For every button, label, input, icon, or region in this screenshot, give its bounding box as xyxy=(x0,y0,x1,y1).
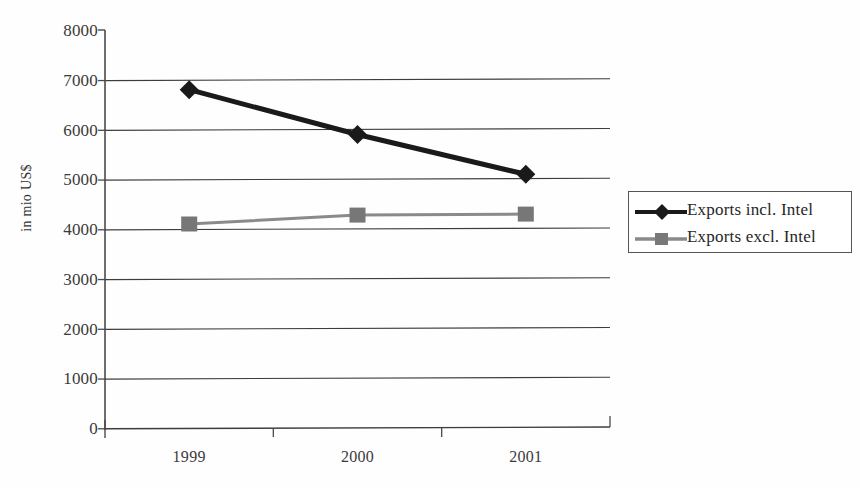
data-point-marker xyxy=(348,125,367,144)
legend-item-exports-incl-intel: Exports incl. Intel xyxy=(629,196,851,223)
gridline xyxy=(105,427,610,429)
data-point-marker xyxy=(180,80,199,99)
gridline xyxy=(105,328,610,330)
legend-label: Exports incl. Intel xyxy=(687,200,813,220)
legend-swatch-diamond xyxy=(635,200,687,220)
gridline xyxy=(105,278,610,280)
data-point-marker xyxy=(516,165,535,184)
diamond-marker-icon xyxy=(654,204,670,220)
data-series xyxy=(180,80,536,231)
gridline xyxy=(105,178,610,180)
legend-swatch-square xyxy=(635,227,687,247)
chart-figure: in mio US$ 80007000600050004000300020001… xyxy=(0,0,860,488)
x-axis-tick-label: 2000 xyxy=(313,448,403,466)
data-point-marker xyxy=(350,208,366,223)
x-axis-tick-label: 2001 xyxy=(481,448,571,466)
data-point-marker xyxy=(518,207,534,222)
gridline xyxy=(105,79,610,81)
square-marker-icon xyxy=(654,231,670,247)
gridline xyxy=(105,377,610,379)
legend-label: Exports excl. Intel xyxy=(687,227,816,247)
legend-item-exports-excl-intel: Exports excl. Intel xyxy=(629,223,851,250)
gridline xyxy=(105,228,610,230)
chart-legend: Exports incl. Intel Exports excl. Intel xyxy=(628,191,852,253)
x-axis-tick-label: 1999 xyxy=(144,448,234,466)
data-point-marker xyxy=(181,217,197,232)
